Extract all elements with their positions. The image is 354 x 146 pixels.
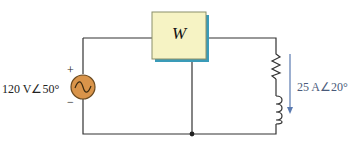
resistor-icon	[272, 52, 280, 79]
wattmeter-label: W	[152, 24, 206, 44]
wire-bottom	[83, 99, 276, 134]
wire-top-right	[206, 38, 276, 52]
ac-source-icon	[71, 75, 95, 99]
source-voltage-label: 120 V∠50°	[2, 82, 59, 97]
load-current-label: 25 A∠20°	[297, 80, 348, 95]
circuit-wires	[0, 0, 354, 146]
source-minus-sign: −	[67, 95, 74, 110]
current-arrow-icon	[287, 54, 293, 114]
source-plus-sign: +	[67, 63, 74, 78]
inductor-icon	[276, 96, 282, 124]
junction-dot	[190, 132, 195, 137]
circuit-diagram: W 120 V∠50° + − 25 A∠20°	[0, 0, 354, 146]
